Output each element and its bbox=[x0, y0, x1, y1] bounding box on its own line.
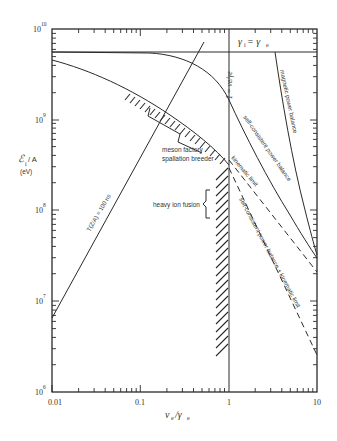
heavy-ion-fusion-bracket bbox=[203, 190, 210, 218]
meson-factory-label-line1: meson factory bbox=[162, 146, 204, 154]
plot-frame bbox=[52, 29, 317, 392]
svg-text:e: e bbox=[187, 415, 190, 421]
svg-text:10: 10 bbox=[41, 21, 47, 27]
svg-text:10: 10 bbox=[35, 297, 43, 306]
chart: 10 10 10 9 10 8 10 7 10 6 0.01 0.1 1 10 … bbox=[0, 0, 337, 441]
svg-text:(eV): (eV) bbox=[20, 168, 32, 176]
meson-factory-label-line2: spallation breeder bbox=[162, 155, 215, 163]
magnetic-power-balance-label: magnetic power balance bbox=[279, 69, 299, 135]
tf-100ns-line bbox=[52, 42, 204, 318]
x-axis-title: ν e /γ e bbox=[165, 409, 190, 421]
x-tick-labels: 0.01 0.1 1 10 bbox=[48, 398, 321, 407]
y-tick-labels: 10 10 10 9 10 8 10 7 10 6 bbox=[33, 21, 47, 397]
svg-text:ν: ν bbox=[165, 409, 170, 420]
svg-text:0.01: 0.01 bbox=[48, 398, 62, 407]
y-axis-title: ℰ i / A (eV) bbox=[18, 153, 37, 176]
svg-text:6: 6 bbox=[43, 384, 46, 390]
svg-text:1: 1 bbox=[227, 398, 231, 407]
nu-equals-label: 1 = νe/γe bbox=[225, 71, 234, 99]
y-axis-ticks bbox=[52, 33, 317, 364]
svg-text:9: 9 bbox=[43, 112, 46, 118]
gamma-equal-label: γ i = γ e bbox=[238, 36, 269, 48]
svg-text:10: 10 bbox=[35, 116, 43, 125]
svg-text:i: i bbox=[25, 161, 27, 167]
svg-text:i: i bbox=[244, 42, 246, 48]
svg-text:/γ: /γ bbox=[174, 409, 183, 420]
heavy-ion-fusion-label: heavy ion fusion bbox=[153, 201, 200, 209]
svg-text:10: 10 bbox=[35, 206, 43, 215]
svg-text:10: 10 bbox=[33, 25, 41, 34]
meson-factory-hatch bbox=[125, 94, 225, 164]
svg-text:ℰ: ℰ bbox=[18, 153, 25, 164]
x-axis-ticks bbox=[52, 29, 313, 392]
svg-text:γ: γ bbox=[238, 36, 243, 47]
svg-text:e: e bbox=[266, 42, 269, 48]
svg-text:= γ: = γ bbox=[247, 36, 261, 47]
svg-text:10: 10 bbox=[35, 388, 43, 397]
svg-text:e: e bbox=[171, 415, 174, 421]
kinematic-limit-label: kinematic limit bbox=[230, 155, 259, 188]
svg-text:0.1: 0.1 bbox=[135, 398, 145, 407]
svg-text:/ A: / A bbox=[28, 155, 37, 164]
heavy-ion-fusion-hatch bbox=[216, 168, 228, 356]
svg-text:10: 10 bbox=[313, 398, 321, 407]
svg-text:8: 8 bbox=[43, 202, 46, 208]
tf-100ns-label: T(Z/A) = 100 ns bbox=[86, 193, 112, 232]
svg-text:7: 7 bbox=[43, 293, 46, 299]
self-plus-kinematic-label: self-consistent power balance + kinemati… bbox=[238, 197, 301, 309]
